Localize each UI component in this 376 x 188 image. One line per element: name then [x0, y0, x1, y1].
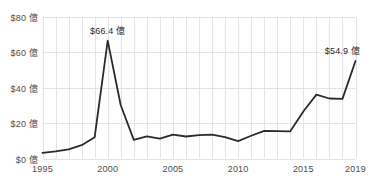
line-chart: $0 億$20 億$40 億$60 億$80 億 199520002005201…: [0, 0, 376, 188]
x-tick-label-2015: 2015: [293, 164, 314, 174]
annotation-label-1: $54.9 億: [325, 44, 360, 57]
x-tick-label-2000: 2000: [97, 164, 118, 174]
x-tick-label-2010: 2010: [228, 164, 249, 174]
x-tick-label-2019: 2019: [345, 164, 366, 174]
x-axis-tick-labels: 199520002005201020152019: [0, 0, 376, 188]
annotation-label-0: $66.4 億: [90, 24, 125, 37]
x-tick-label-2005: 2005: [162, 164, 183, 174]
x-tick-label-1995: 1995: [32, 164, 53, 174]
